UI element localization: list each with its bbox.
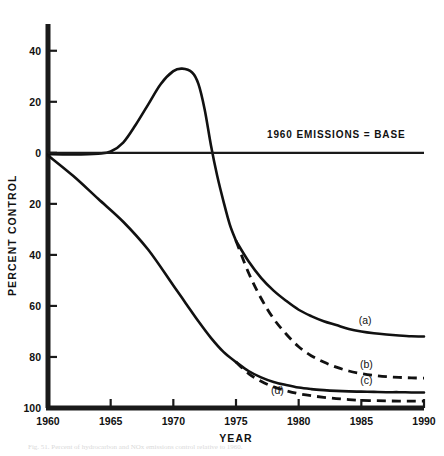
chart-tick-labels: 4020020406080100196019651970197519801985… xyxy=(23,45,435,427)
x-tick-label: 1990 xyxy=(412,415,436,427)
curve-label-curve-a: (a) xyxy=(359,314,372,326)
figure-panel: 4020020406080100196019651970197519801985… xyxy=(0,0,444,456)
curve-curve-a xyxy=(236,241,424,337)
figure-caption: Fig. 51. Percent of hydrocarbon and NOx … xyxy=(28,443,428,451)
baseline-note: 1960 EMISSIONS = BASE xyxy=(267,129,406,140)
y-tick-label: 40 xyxy=(29,249,41,261)
x-tick-label: 1985 xyxy=(350,415,374,427)
y-axis-title: PERCENT CONTROL xyxy=(6,175,18,297)
x-tick-label: 1965 xyxy=(99,415,123,427)
y-tick-label: 60 xyxy=(29,300,41,312)
curve-label-curve-d: (d) xyxy=(271,384,284,396)
curve-curve-b xyxy=(236,241,424,378)
x-tick-label: 1970 xyxy=(162,415,186,427)
curve-uncontrolled-emissions-growth xyxy=(48,69,236,241)
chart-curves xyxy=(48,69,424,402)
chart-annotations: 1960 EMISSIONS = BASE(a)(b)(c)(d) xyxy=(267,129,406,396)
y-tick-label: 0 xyxy=(35,147,41,159)
x-tick-label: 1980 xyxy=(287,415,311,427)
y-tick-label: 80 xyxy=(29,351,41,363)
curve-baseline-decline xyxy=(48,155,236,362)
y-tick-label: 40 xyxy=(29,45,41,57)
chart-axes xyxy=(46,24,424,408)
curve-curve-d xyxy=(236,362,424,401)
y-tick-label: 20 xyxy=(29,96,41,108)
curve-label-curve-b: (b) xyxy=(360,358,373,370)
x-tick-label: 1960 xyxy=(36,415,60,427)
x-tick-label: 1975 xyxy=(224,415,248,427)
emissions-control-chart: 4020020406080100196019651970197519801985… xyxy=(0,0,444,456)
curve-label-curve-c: (c) xyxy=(360,374,372,386)
y-tick-label: 20 xyxy=(29,198,41,210)
y-tick-label: 100 xyxy=(23,402,41,414)
chart-ticks xyxy=(48,51,424,408)
